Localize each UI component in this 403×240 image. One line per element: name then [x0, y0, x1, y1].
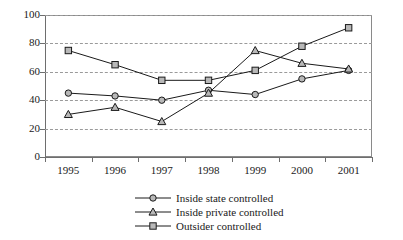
series-square	[65, 25, 352, 84]
data-point	[251, 47, 259, 54]
data-point	[299, 43, 305, 49]
legend-label: Inside state controlled	[173, 191, 273, 205]
data-point	[299, 76, 305, 82]
triangle-marker-icon	[133, 205, 173, 219]
legend-item[interactable]: Inside state controlled	[133, 191, 333, 205]
series-circle	[65, 67, 352, 103]
data-point	[112, 62, 118, 68]
data-point	[252, 67, 258, 73]
data-point	[252, 91, 258, 97]
data-point	[205, 77, 211, 83]
data-point	[159, 77, 165, 83]
data-point	[159, 97, 165, 103]
line-chart: 020406080100 199519961997199819992000200…	[0, 0, 403, 240]
square-marker-icon	[133, 219, 173, 233]
data-point	[345, 25, 351, 31]
data-point	[112, 93, 118, 99]
data-point	[111, 103, 119, 110]
series-triangle	[64, 47, 352, 125]
circle-marker-icon	[133, 191, 173, 205]
data-point	[65, 47, 71, 53]
legend: Inside state controlledInside private co…	[133, 191, 333, 233]
legend-label: Outsider controlled	[173, 219, 261, 233]
series-line	[68, 28, 348, 81]
legend-label: Inside private controlled	[173, 205, 284, 219]
data-point	[65, 90, 71, 96]
legend-item[interactable]: Inside private controlled	[133, 205, 333, 219]
legend-item[interactable]: Outsider controlled	[133, 219, 333, 233]
